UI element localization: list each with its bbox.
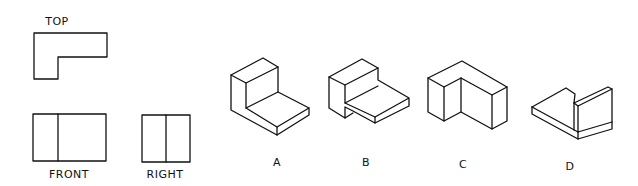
top-view-label: TOP (44, 15, 69, 28)
option-a-figure[interactable]: A (231, 58, 309, 169)
front-view-shape (33, 114, 106, 161)
option-b-figure[interactable]: B (329, 59, 409, 169)
front-view: FRONT (33, 114, 106, 181)
front-view-label: FRONT (49, 168, 89, 181)
top-view-shape (34, 33, 107, 79)
right-view: RIGHT (142, 115, 190, 181)
top-view: TOP (34, 15, 107, 79)
option-c-label: C (459, 158, 467, 171)
option-b-label: B (362, 156, 370, 169)
orthographic-projection-diagram: TOP FRONT RIGHT A B C (0, 0, 638, 186)
option-c-figure[interactable]: C (428, 61, 507, 171)
right-view-label: RIGHT (147, 168, 184, 181)
option-d-label: D (566, 160, 575, 173)
option-a-label: A (273, 156, 281, 169)
option-d-figure[interactable]: D (532, 87, 612, 173)
